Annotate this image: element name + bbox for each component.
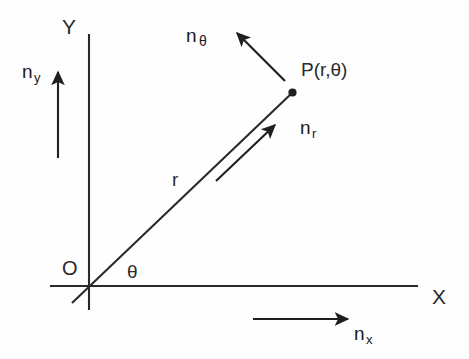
angle-theta-label: θ	[127, 262, 138, 281]
n-r-arrow	[216, 125, 275, 181]
n-theta-base: n	[186, 25, 197, 46]
n-y-subscript: y	[33, 70, 41, 85]
n-x-base: n	[354, 323, 365, 344]
origin-label: O	[62, 258, 78, 278]
n-r-subscript: r	[311, 126, 317, 141]
x-axis-label: X	[432, 286, 446, 307]
n-r-vector-label: nr	[300, 118, 316, 140]
n-theta-vector-label: nθ	[186, 26, 207, 48]
n-r-base: n	[300, 117, 311, 138]
n-y-vector-label: ny	[22, 62, 41, 84]
polar-coordinates-figure: Y X O θ r P(r,θ) ny nx nr nθ	[0, 0, 469, 359]
figure-canvas	[0, 0, 469, 359]
radius-line	[72, 93, 292, 303]
n-theta-arrow	[237, 33, 285, 81]
n-y-base: n	[22, 61, 33, 82]
n-x-subscript: x	[365, 332, 373, 347]
radius-label: r	[172, 170, 178, 189]
point-p-label: P(r,θ)	[301, 60, 347, 79]
point-p-marker	[288, 88, 296, 96]
n-x-vector-label: nx	[354, 324, 373, 346]
n-theta-subscript: θ	[197, 33, 207, 49]
y-axis-label: Y	[62, 16, 76, 37]
